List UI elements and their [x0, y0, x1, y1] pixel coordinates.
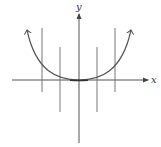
parabola-curve-left: [27, 30, 79, 80]
vertical-line-test-diagram: x y: [0, 0, 161, 147]
y-axis-label: y: [75, 1, 82, 12]
parabola-curve: [79, 30, 131, 80]
x-axis-label: x: [151, 74, 157, 85]
